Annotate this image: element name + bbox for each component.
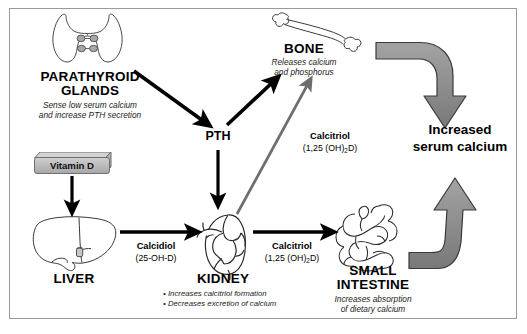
parathyroid-subtitle-line1: Sense low serum calcium <box>6 100 174 110</box>
parathyroid-glands-icon <box>53 14 122 62</box>
calcidiol-name: Calcidiol <box>118 241 194 251</box>
bone-title: BONE <box>260 42 348 57</box>
kidney-title: KIDNEY <box>178 272 268 287</box>
arrow-bone-to-outcome <box>376 43 466 129</box>
calcitriol-bone-formula: (1,25 (OH)2D) <box>288 144 372 154</box>
calcidiol-formula: (25-OH-D) <box>118 254 194 264</box>
calcitriol-bone-formula-sub: 2 <box>344 147 348 154</box>
bone-subtitle-line2: and phosphorus <box>254 67 354 77</box>
small-intestine-subtitle-line1: Increases absorption <box>318 294 428 304</box>
calcitriol-intestine-formula-sub: 2 <box>306 257 310 264</box>
kidney-bullet-1: • Increases calcitriol formation <box>163 289 267 300</box>
liver-icon <box>33 217 116 271</box>
arrow-pth-to-bone <box>227 80 275 125</box>
calcitriol-bone-name: Calcitriol <box>288 131 372 141</box>
parathyroid-subtitle-line2: and increase PTH secretion <box>6 110 174 120</box>
calcitriol-intestine-formula-pre: (1,25 (OH) <box>265 253 307 263</box>
parathyroid-title-line2: GLANDS <box>6 84 174 99</box>
arrow-intestine-to-outcome <box>409 178 476 269</box>
outcome-line1: Increased <box>398 122 522 138</box>
vitamin-d-box: Vitamin D <box>34 152 112 174</box>
calcitriol-intestine-formula: (1,25 (OH)2D) <box>250 254 334 264</box>
liver-title: LIVER <box>28 272 120 287</box>
calcitriol-intestine-formula-post: D) <box>310 253 319 263</box>
bone-subtitle-line1: Releases calcium <box>254 57 354 67</box>
calcitriol-intestine-name: Calcitriol <box>250 241 334 251</box>
small-intestine-icon <box>336 205 397 271</box>
small-intestine-subtitle-line2: of dietary calcium <box>318 304 428 314</box>
diagram-canvas: PARATHYROID GLANDS Sense low serum calci… <box>0 0 527 334</box>
outcome-line2: serum calcium <box>398 139 522 155</box>
vitamin-d-label: Vitamin D <box>34 157 110 174</box>
calcitriol-bone-formula-post: D) <box>348 143 357 153</box>
kidney-bullet-2: • Decreases excretion of calcium <box>163 299 276 310</box>
calcitriol-bone-formula-pre: (1,25 (OH) <box>303 143 345 153</box>
small-intestine-title-line2: INTESTINE <box>324 278 422 293</box>
pth-label: PTH <box>190 130 246 144</box>
